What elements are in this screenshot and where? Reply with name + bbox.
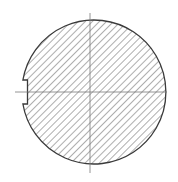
shaft-section-diagram — [0, 0, 178, 182]
